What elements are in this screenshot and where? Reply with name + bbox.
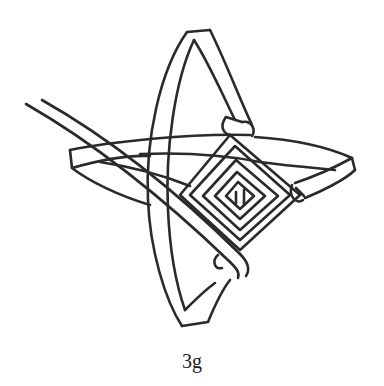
weaving-illustration xyxy=(0,0,384,340)
illustration-svg xyxy=(0,0,384,340)
vertical-hoop xyxy=(148,30,252,326)
yarn-strands xyxy=(26,100,248,278)
figure-caption: 3g xyxy=(0,350,384,373)
